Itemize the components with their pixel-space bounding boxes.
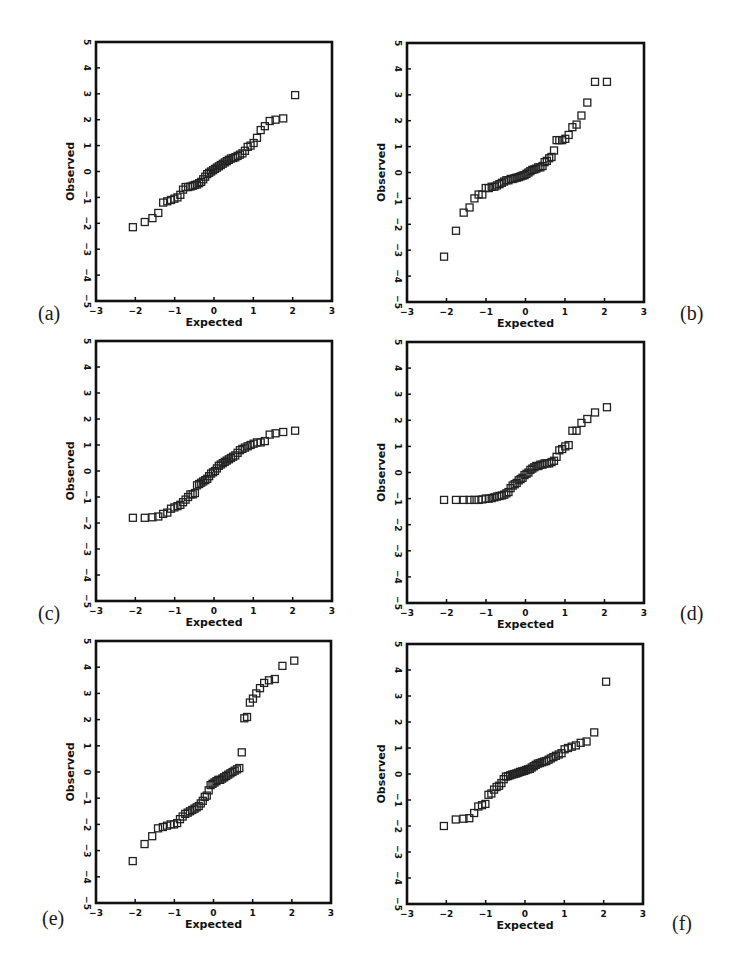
x-axis-title: Expected: [497, 618, 554, 631]
y-tick-label: −4: [393, 871, 403, 885]
x-axis-title: Expected: [185, 616, 242, 629]
y-axis-title: Observed: [64, 142, 77, 201]
y-tick-label: −2: [393, 518, 403, 532]
y-axis-title: Observed: [375, 443, 388, 502]
y-tick-label: 0: [393, 469, 403, 475]
y-tick-label: −3: [393, 243, 403, 257]
y-tick-label: 2: [393, 118, 403, 124]
y-tick-label: 4: [82, 664, 92, 670]
data-point: [441, 253, 448, 260]
panel-label-d: (d): [680, 602, 703, 625]
x-tick-label: 3: [641, 608, 647, 618]
x-tick-label: −1: [479, 608, 493, 618]
y-tick-label: 2: [82, 416, 92, 422]
y-tick-label: −4: [82, 268, 92, 282]
y-tick-label: 3: [393, 391, 403, 397]
qq-panel-c: −3−2−10123−5−4−3−2−1012345ExpectedObserv…: [64, 338, 335, 629]
data-point: [280, 429, 287, 436]
y-tick-label: −2: [82, 216, 92, 230]
y-axis-title: Observed: [64, 742, 77, 801]
y-tick-label: 5: [393, 40, 403, 46]
panel-label-f: (f): [672, 912, 692, 935]
y-tick-label: 1: [393, 745, 403, 751]
y-tick-label: 2: [393, 719, 403, 725]
qq-plot-figure: −3−2−10123−5−4−3−2−1012345ExpectedObserv…: [0, 0, 745, 977]
data-point: [149, 833, 156, 840]
data-point: [129, 514, 136, 521]
x-tick-label: 0: [522, 307, 528, 317]
y-tick-label: −3: [82, 844, 92, 858]
y-tick-label: −1: [393, 191, 403, 205]
data-point: [185, 494, 192, 501]
x-tick-label: 2: [601, 909, 607, 919]
x-tick-label: −1: [167, 908, 181, 918]
y-tick-label: −5: [393, 295, 403, 309]
x-axis-title: Expected: [185, 918, 242, 931]
x-tick-label: 2: [290, 606, 296, 616]
panel-label-b: (b): [680, 302, 703, 325]
y-tick-label: −5: [82, 896, 92, 910]
y-tick-label: 3: [82, 690, 92, 696]
y-tick-label: −4: [82, 870, 92, 884]
x-tick-label: 0: [211, 606, 217, 616]
data-point: [603, 678, 610, 685]
y-tick-label: −5: [393, 596, 403, 610]
x-tick-label: 0: [211, 306, 217, 316]
y-tick-label: 4: [82, 364, 92, 370]
y-tick-label: −1: [82, 791, 92, 805]
data-point: [238, 749, 245, 756]
y-tick-label: 4: [393, 667, 403, 673]
y-tick-label: −3: [393, 544, 403, 558]
x-tick-label: 1: [561, 909, 567, 919]
y-tick-label: 0: [82, 168, 92, 174]
y-tick-label: 5: [82, 638, 92, 644]
data-point: [441, 496, 448, 503]
y-tick-label: 4: [82, 65, 92, 71]
data-point: [591, 729, 598, 736]
y-tick-label: 3: [82, 91, 92, 97]
x-tick-label: 0: [210, 908, 216, 918]
plot-frame: [96, 641, 331, 903]
x-tick-label: 1: [250, 908, 256, 918]
y-tick-label: 2: [82, 716, 92, 722]
qq-panel-d: −3−2−10123−5−4−3−2−1012345ExpectedObserv…: [375, 339, 647, 631]
panel-label-a: (a): [38, 302, 60, 325]
x-tick-label: −2: [440, 307, 454, 317]
x-tick-label: −2: [128, 606, 142, 616]
figure-canvas: −3−2−10123−5−4−3−2−1012345ExpectedObserv…: [0, 0, 745, 977]
y-tick-label: −1: [393, 793, 403, 807]
data-point: [141, 514, 148, 521]
x-tick-label: 1: [250, 606, 256, 616]
x-tick-label: −1: [479, 909, 493, 919]
x-tick-label: 3: [640, 909, 646, 919]
data-point: [603, 404, 610, 411]
y-axis-title: Observed: [375, 744, 388, 803]
x-tick-label: −2: [439, 909, 453, 919]
y-tick-label: 5: [82, 338, 92, 344]
x-axis-title: Expected: [185, 316, 242, 329]
data-point: [129, 224, 136, 231]
y-tick-label: −4: [393, 269, 403, 283]
y-tick-label: −2: [82, 516, 92, 530]
x-tick-label: 2: [601, 307, 607, 317]
x-tick-label: −1: [168, 606, 182, 616]
y-tick-label: 1: [82, 442, 92, 448]
y-tick-label: −3: [393, 845, 403, 859]
data-point: [452, 227, 459, 234]
x-tick-label: 2: [601, 608, 607, 618]
x-axis-title: Expected: [496, 919, 553, 932]
data-point: [279, 662, 286, 669]
y-tick-label: 1: [82, 142, 92, 148]
y-tick-label: 5: [393, 339, 403, 345]
data-point: [261, 679, 268, 686]
x-tick-label: −1: [479, 307, 493, 317]
data-point: [440, 823, 447, 830]
y-tick-label: 5: [393, 641, 403, 647]
y-tick-label: 4: [393, 66, 403, 72]
data-point: [452, 496, 459, 503]
panel-label-c: (c): [38, 602, 60, 625]
y-tick-label: −2: [82, 817, 92, 831]
data-point: [182, 496, 189, 503]
x-tick-label: −1: [168, 306, 182, 316]
x-tick-label: 2: [290, 306, 296, 316]
